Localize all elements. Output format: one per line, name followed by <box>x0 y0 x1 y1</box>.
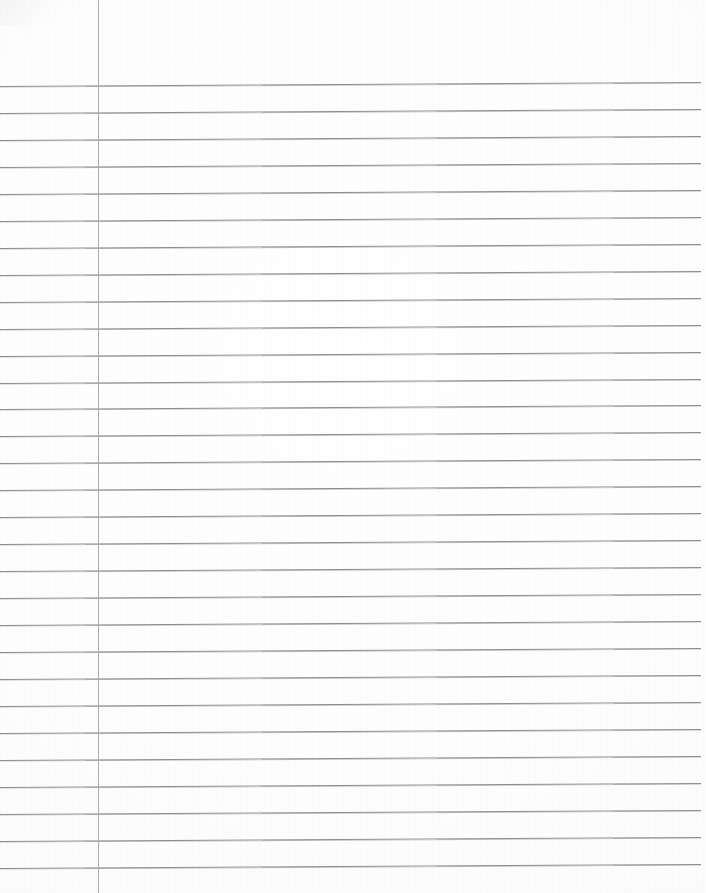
rule-line <box>0 82 701 87</box>
rule-line <box>0 729 701 734</box>
rule-line <box>0 298 701 303</box>
rule-line <box>0 864 701 869</box>
rule-line <box>0 675 701 680</box>
rule-line <box>0 432 701 437</box>
horizontal-rule-lines <box>0 0 706 893</box>
rule-line <box>0 244 701 249</box>
rule-line <box>0 217 701 222</box>
vertical-margin-rule <box>98 0 99 893</box>
rule-line <box>0 486 701 491</box>
rule-line <box>0 567 701 572</box>
rule-line <box>0 702 701 707</box>
rule-line <box>0 756 701 761</box>
rule-line <box>0 621 701 626</box>
rule-line <box>0 109 701 114</box>
rule-line <box>0 513 701 518</box>
rule-line <box>0 594 701 599</box>
rule-line <box>0 163 701 168</box>
rule-line <box>0 783 701 788</box>
rule-line <box>0 459 701 464</box>
rule-line <box>0 648 701 653</box>
rule-line <box>0 540 701 545</box>
rule-line <box>0 271 701 276</box>
scanned-page <box>0 0 706 893</box>
rule-line <box>0 405 701 410</box>
rule-line <box>0 325 701 330</box>
rule-line <box>0 136 701 141</box>
rule-line <box>0 837 701 842</box>
rule-line <box>0 190 701 195</box>
rule-line <box>0 379 701 384</box>
rule-line <box>0 352 701 357</box>
rule-line <box>0 810 701 815</box>
